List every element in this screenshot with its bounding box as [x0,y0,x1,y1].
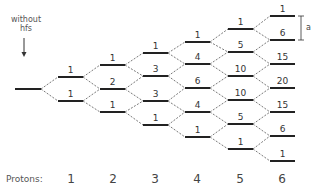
splitting-connector [253,149,270,161]
intensity-label: 10 [235,65,246,74]
splitting-connector [253,112,270,124]
intensity-label: 1 [153,114,159,123]
splitting-connector [168,53,185,64]
splitting-connector [83,101,100,112]
splitting-connector [125,112,143,125]
splitting-connector [125,53,143,65]
intensity-label: 6 [280,125,286,134]
proton-count-3: 3 [151,172,159,186]
intensity-label: 20 [277,77,288,86]
splitting-connector [125,65,143,76]
splitting-connector [253,29,270,40]
proton-count-1: 1 [67,172,75,186]
intensity-label: 1 [238,138,244,147]
splitting-connector [168,64,185,76]
intensity-label: 4 [195,101,201,110]
intensity-label: 1 [195,31,201,40]
proton-count-6: 6 [278,172,286,186]
hyperfine-splitting-diagram [0,0,326,195]
splitting-connector [210,42,228,52]
splitting-connector [168,42,185,53]
splitting-connector [253,40,270,52]
splitting-connector [253,52,270,64]
splitting-connector [41,77,58,89]
splitting-connector [253,100,270,112]
intensity-label: 1 [280,5,286,14]
proton-count-2: 2 [109,172,117,186]
splitting-connector [253,64,270,76]
splitting-connector [253,124,270,136]
splitting-connector [210,124,228,137]
splitting-connector [168,112,185,125]
intensity-label: 2 [110,78,116,87]
arrow-head-icon [22,52,27,57]
splitting-connector [41,89,58,101]
splitting-connector [253,76,270,88]
splitting-connector [210,88,228,100]
intensity-label: 3 [153,90,159,99]
without-hfs-annotation: without hfs [7,15,45,33]
intensity-label: 1 [238,18,244,27]
splitting-connector [83,77,100,89]
intensity-label: 15 [277,101,288,110]
annotation-line-1: without [7,15,45,24]
splitting-connector [168,101,185,112]
intensity-label: 1 [68,90,74,99]
splitting-connector [168,76,185,88]
intensity-label: 1 [110,54,116,63]
annotation-line-2: hfs [7,24,45,33]
intensity-label: 1 [110,101,116,110]
intensity-label: 15 [277,53,288,62]
splitting-connector [210,112,228,124]
protons-label: Protons: [6,174,43,184]
splitting-connector [168,88,185,101]
intensity-label: 1 [68,66,74,75]
splitting-connector [125,89,143,101]
splitting-connector [83,65,100,77]
splitting-connector [210,76,228,88]
intensity-label: 6 [280,29,286,38]
intensity-label: 6 [195,77,201,86]
intensity-label: 5 [238,113,244,122]
splitting-connector [253,88,270,100]
intensity-label: 1 [153,42,159,51]
splitting-connector [168,125,185,137]
splitting-connector [210,29,228,42]
intensity-label: 5 [238,41,244,50]
splitting-connector [125,76,143,89]
proton-count-5: 5 [236,172,244,186]
splitting-connector [125,101,143,112]
intensity-label: 3 [153,65,159,74]
splitting-constant-label: a [306,23,311,32]
proton-count-4: 4 [193,172,201,186]
splitting-connector [210,52,228,64]
splitting-connector [210,137,228,149]
splitting-connector [253,16,270,29]
splitting-connector [83,89,100,101]
splitting-connector [210,100,228,112]
splitting-connector [253,136,270,149]
intensity-label: 1 [280,150,286,159]
intensity-label: 4 [195,53,201,62]
intensity-label: 10 [235,89,246,98]
intensity-label: 1 [195,126,201,135]
splitting-connector [210,64,228,76]
